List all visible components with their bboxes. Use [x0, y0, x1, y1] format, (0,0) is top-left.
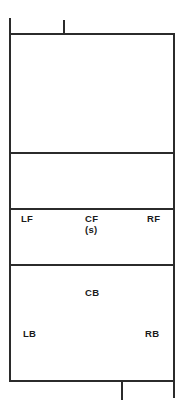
center-back-label-text: CB: [85, 287, 99, 298]
bottom-center-post-tick-icon: [121, 381, 123, 400]
position-label-right-front: RF: [147, 213, 160, 224]
bottom-right-post-tick-icon: [173, 381, 175, 398]
top-left-post-tick-icon: [9, 18, 11, 34]
court-divider-line-3: [9, 264, 175, 266]
left-front-label-text: LF: [21, 213, 33, 224]
top-center-post-tick-icon: [63, 20, 65, 34]
left-back-label-text: LB: [23, 328, 36, 339]
court-divider-line-2: [9, 208, 175, 210]
right-back-label-text: RB: [145, 328, 159, 339]
position-label-left-back: LB: [23, 328, 36, 339]
position-label-left-front: LF: [21, 213, 33, 224]
position-label-right-back: RB: [145, 328, 159, 339]
court-divider-line-1: [9, 152, 175, 154]
position-label-center-front: CF (s): [85, 213, 98, 235]
position-label-center-back: CB: [85, 287, 99, 298]
court-position-diagram: LF CF (s) RF CB LB RB: [0, 0, 185, 407]
center-front-label-text: CF: [85, 213, 98, 224]
center-front-setter-note: (s): [85, 224, 98, 235]
right-front-label-text: RF: [147, 213, 160, 224]
